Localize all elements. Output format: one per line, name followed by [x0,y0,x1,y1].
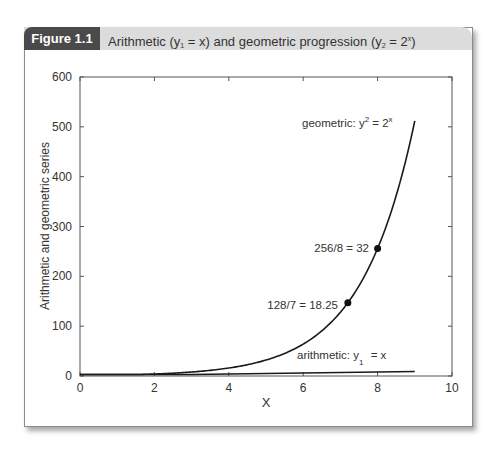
point-label-2: 256/8 = 32 [314,242,369,254]
x-tick-label: 0 [77,381,84,395]
y-tick-label: 200 [52,269,72,283]
x-tick-label: 2 [151,381,158,395]
x-axis-ticks: 0246810 [77,77,459,395]
data-point-marker [374,245,381,252]
y-tick-label: 300 [52,220,72,234]
x-tick-label: 4 [225,381,232,395]
x-tick-label: 8 [374,381,381,395]
x-tick-label: 10 [445,381,459,395]
y-tick-label: 600 [52,70,72,84]
data-point-marker [344,299,351,306]
y-tick-label: 100 [52,319,72,333]
y-tick-label: 0 [65,369,72,383]
arithmetic-label: arithmetic: y1 = x [297,349,387,367]
x-tick-label: 6 [300,381,307,395]
plot-frame [80,77,452,376]
y-tick-label: 400 [52,170,72,184]
geometric-label: geometric: y2 = 2x [302,115,393,129]
chart: 0246810 0100200300400500600 X Arithmetic… [0,0,493,452]
x-axis-label: X [262,395,271,410]
y-tick-label: 500 [52,120,72,134]
arithmetic-series-line [80,372,415,375]
point-label-1: 128/7 = 18.25 [267,299,338,311]
y-axis-label: Arithmetic and geometric series [38,142,52,310]
